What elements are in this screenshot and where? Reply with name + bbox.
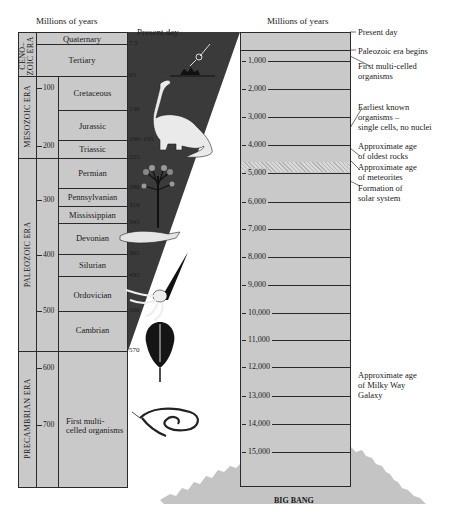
annotation-line: Approximate age: [358, 370, 417, 380]
annotation-oldest-rocks: Approximate age of oldest rocks: [358, 141, 417, 161]
tick-10000: 10,000: [246, 308, 272, 317]
boundary-65: 65: [129, 71, 136, 79]
annotation-line: of meteorites: [358, 172, 417, 182]
tick-5000: 5,000: [246, 168, 268, 177]
boundary-225: 225: [129, 153, 140, 161]
present-day-label-left: Present day: [137, 27, 179, 37]
paleozoic-begins-line: [240, 50, 351, 51]
annotation-line: Earliest known: [358, 102, 432, 112]
boundary-7-5: 7.5: [129, 39, 138, 47]
tick-1000: 1,000: [246, 56, 268, 65]
tick-12000: 12,000: [246, 362, 272, 371]
tick-2000: 2,000: [246, 84, 268, 93]
tick-6000: 6,000: [246, 197, 268, 206]
annotation-line: of Milky Way: [358, 380, 417, 390]
annotation-line: Galaxy: [358, 390, 417, 400]
boundary-280: 280: [129, 183, 140, 191]
fish-icon: [120, 231, 180, 243]
annotation-line: of oldest rocks: [358, 151, 417, 161]
tick-13000: 13,000: [246, 391, 272, 400]
annotation-first-multicelled: First multi-celled organisms: [358, 61, 417, 81]
annotation-earliest-organisms: Earliest known organisms – single cells,…: [358, 102, 432, 132]
annotation-line: Approximate age: [358, 162, 417, 172]
annotation-meteorites: Approximate age of meteorites: [358, 162, 417, 182]
annotation-line: Formation of: [358, 183, 403, 193]
annotation-paleozoic-begins: Paleozoic era begins: [358, 46, 428, 56]
tick-11000: 11,000: [246, 335, 272, 344]
annotation-solar-system: Formation of solar system: [358, 183, 403, 203]
annotation-line: organisms –: [358, 112, 432, 122]
tick-15000: 15,000: [246, 447, 272, 456]
boundary-435: 435: [129, 271, 140, 279]
boundary-190-195: 190–195: [129, 135, 154, 143]
annotation-line: First multi-celled: [358, 61, 417, 71]
annotation-line: solar system: [358, 193, 403, 203]
annotation-line: Approximate age: [358, 141, 417, 151]
annotation-milky-way: Approximate age of Milky Way Galaxy: [358, 370, 417, 400]
boundary-570: 570: [129, 346, 140, 354]
tick-9000: 9,000: [246, 280, 268, 289]
boundary-136: 136: [129, 105, 140, 113]
annotation-present-day: Present day: [358, 27, 397, 37]
annotation-line: organisms: [358, 71, 417, 81]
boundary-395: 395: [129, 249, 140, 257]
worm-organism-icon: [132, 409, 198, 436]
right-scale-header: Millions of years: [267, 16, 329, 26]
tick-3000: 3,000: [246, 112, 268, 121]
boundary-500: 500: [129, 306, 140, 314]
boundary-345: 345: [129, 218, 140, 226]
boundary-310: 310: [129, 201, 140, 209]
trilobite-icon: [146, 322, 175, 382]
tick-14000: 14,000: [246, 419, 272, 428]
annotation-line: single cells, no nuclei: [358, 122, 432, 132]
big-bang-label: BIG BANG: [274, 496, 314, 505]
tick-7000: 7,000: [246, 224, 268, 233]
tick-4000: 4,000: [246, 140, 268, 149]
tick-8000: 8,000: [246, 252, 268, 261]
